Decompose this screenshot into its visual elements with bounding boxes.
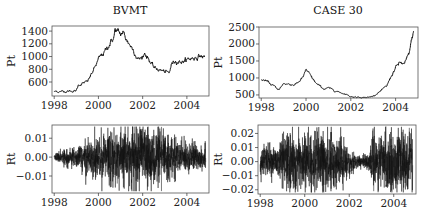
x-tick-label: 2000 bbox=[293, 101, 320, 113]
y-axis-label: Pt bbox=[5, 55, 18, 67]
y-tick-label: 1000 bbox=[21, 50, 48, 62]
chart-panel-bvmt-returns: 1998200020022004−0.010.000.01Rt bbox=[5, 125, 209, 208]
plot-frame bbox=[259, 27, 418, 98]
x-tick-label: 2004 bbox=[174, 196, 201, 208]
y-tick-label: 1000 bbox=[228, 71, 255, 83]
x-tick-label: 1998 bbox=[248, 101, 275, 113]
y-tick-label: 600 bbox=[28, 76, 48, 88]
x-tick-label: 1998 bbox=[247, 197, 274, 209]
x-tick-label: 2002 bbox=[129, 196, 156, 208]
y-tick-label: 0.01 bbox=[231, 141, 254, 153]
x-tick-label: 1998 bbox=[41, 196, 68, 208]
panel-title-bvmt: BVMT bbox=[50, 4, 210, 17]
returns-line bbox=[260, 127, 412, 193]
y-tick-label: 0.02 bbox=[231, 127, 254, 139]
x-tick-label: 2000 bbox=[85, 99, 112, 111]
y-tick-label: 800 bbox=[28, 63, 48, 75]
x-tick-label: 2000 bbox=[85, 196, 112, 208]
y-tick-label: 2000 bbox=[228, 37, 255, 49]
price-line bbox=[261, 31, 413, 98]
y-tick-label: −0.01 bbox=[222, 169, 254, 181]
y-tick-label: −0.02 bbox=[222, 183, 254, 195]
y-tick-label: 1200 bbox=[21, 37, 48, 49]
y-tick-label: 1500 bbox=[228, 54, 255, 66]
y-tick-label: 2500 bbox=[228, 21, 255, 33]
x-tick-label: 2002 bbox=[336, 197, 363, 209]
price-line bbox=[54, 28, 204, 92]
returns-line bbox=[54, 127, 205, 192]
figure-canvas: 1998200020022004600800100012001400Pt1998… bbox=[0, 0, 426, 217]
x-tick-label: 2004 bbox=[174, 99, 201, 111]
y-axis-label: Rt bbox=[5, 152, 18, 165]
x-tick-label: 1998 bbox=[41, 99, 68, 111]
chart-panel-case30-price: 19982000200220045001000150020002500Pt bbox=[212, 21, 418, 114]
y-tick-label: 0.01 bbox=[25, 132, 48, 144]
panel-title-case30: CASE 30 bbox=[258, 4, 418, 17]
chart-panel-case30-returns: 1998200020022004−0.02−0.010.000.010.02Rt bbox=[212, 125, 416, 209]
chart-panel-bvmt-price: 1998200020022004600800100012001400Pt bbox=[5, 25, 209, 111]
y-axis-label: Pt bbox=[212, 56, 225, 68]
y-tick-label: 1400 bbox=[21, 25, 48, 37]
y-axis-label: Rt bbox=[212, 153, 225, 166]
x-tick-label: 2002 bbox=[129, 99, 156, 111]
x-tick-label: 2002 bbox=[337, 101, 364, 113]
y-tick-label: 0.00 bbox=[25, 151, 48, 163]
x-tick-label: 2000 bbox=[291, 197, 318, 209]
y-tick-label: 500 bbox=[235, 88, 255, 100]
x-tick-label: 2004 bbox=[380, 197, 407, 209]
x-tick-label: 2004 bbox=[382, 101, 409, 113]
y-tick-label: 0.00 bbox=[231, 155, 254, 167]
y-tick-label: −0.01 bbox=[16, 170, 48, 182]
